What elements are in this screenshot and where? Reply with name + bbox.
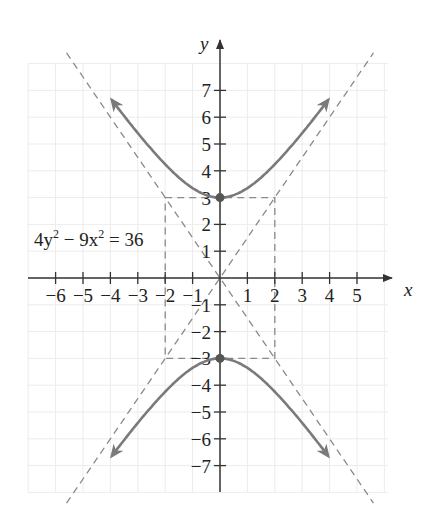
x-axis-label: x xyxy=(403,279,413,300)
y-tick-label: −2 xyxy=(191,322,211,343)
x-tick-label: 1 xyxy=(243,285,253,306)
y-tick-label: −6 xyxy=(191,429,211,450)
y-axis-label: y xyxy=(198,33,209,54)
lower-branch xyxy=(220,358,328,456)
x-tick-label: 5 xyxy=(352,285,362,306)
y-tick-label: −1 xyxy=(191,295,211,316)
y-tick-label: −7 xyxy=(191,456,211,477)
x-tick-label: −3 xyxy=(128,285,148,306)
y-tick-label: −4 xyxy=(191,375,212,396)
y-tick-label: 1 xyxy=(202,241,212,262)
y-tick-label: −5 xyxy=(191,402,211,423)
x-tick-label: 2 xyxy=(270,285,280,306)
x-tick-label: 3 xyxy=(297,285,307,306)
y-tick-label: 5 xyxy=(202,134,212,155)
x-tick-label: 4 xyxy=(325,285,335,306)
equation-label: 4y2 − 9x2 = 36 xyxy=(34,227,143,250)
vertex-point xyxy=(216,193,225,202)
y-tick-label: 7 xyxy=(202,80,212,101)
y-tick-label: 6 xyxy=(202,107,212,128)
hyperbola-chart: −6−5−4−3−2−1123457654321−1−2−3−4−5−6−7 x… xyxy=(0,0,432,520)
x-tick-label: −4 xyxy=(100,285,121,306)
y-tick-label: 4 xyxy=(202,161,212,182)
x-tick-label: −2 xyxy=(155,285,175,306)
x-tick-label: −6 xyxy=(45,285,65,306)
x-tick-label: −5 xyxy=(73,285,93,306)
upper-branch xyxy=(220,100,328,198)
y-tick-label: 2 xyxy=(202,214,212,235)
vertex-point xyxy=(216,354,225,363)
y-tick-label: 3 xyxy=(202,188,212,209)
